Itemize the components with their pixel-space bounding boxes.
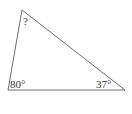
angle-label-top: ?	[23, 15, 28, 27]
triangle-diagram: ? 80° 37°	[0, 0, 132, 114]
angle-label-bottom-right: 37°	[96, 78, 111, 90]
angle-label-bottom-left: 80°	[10, 78, 25, 90]
